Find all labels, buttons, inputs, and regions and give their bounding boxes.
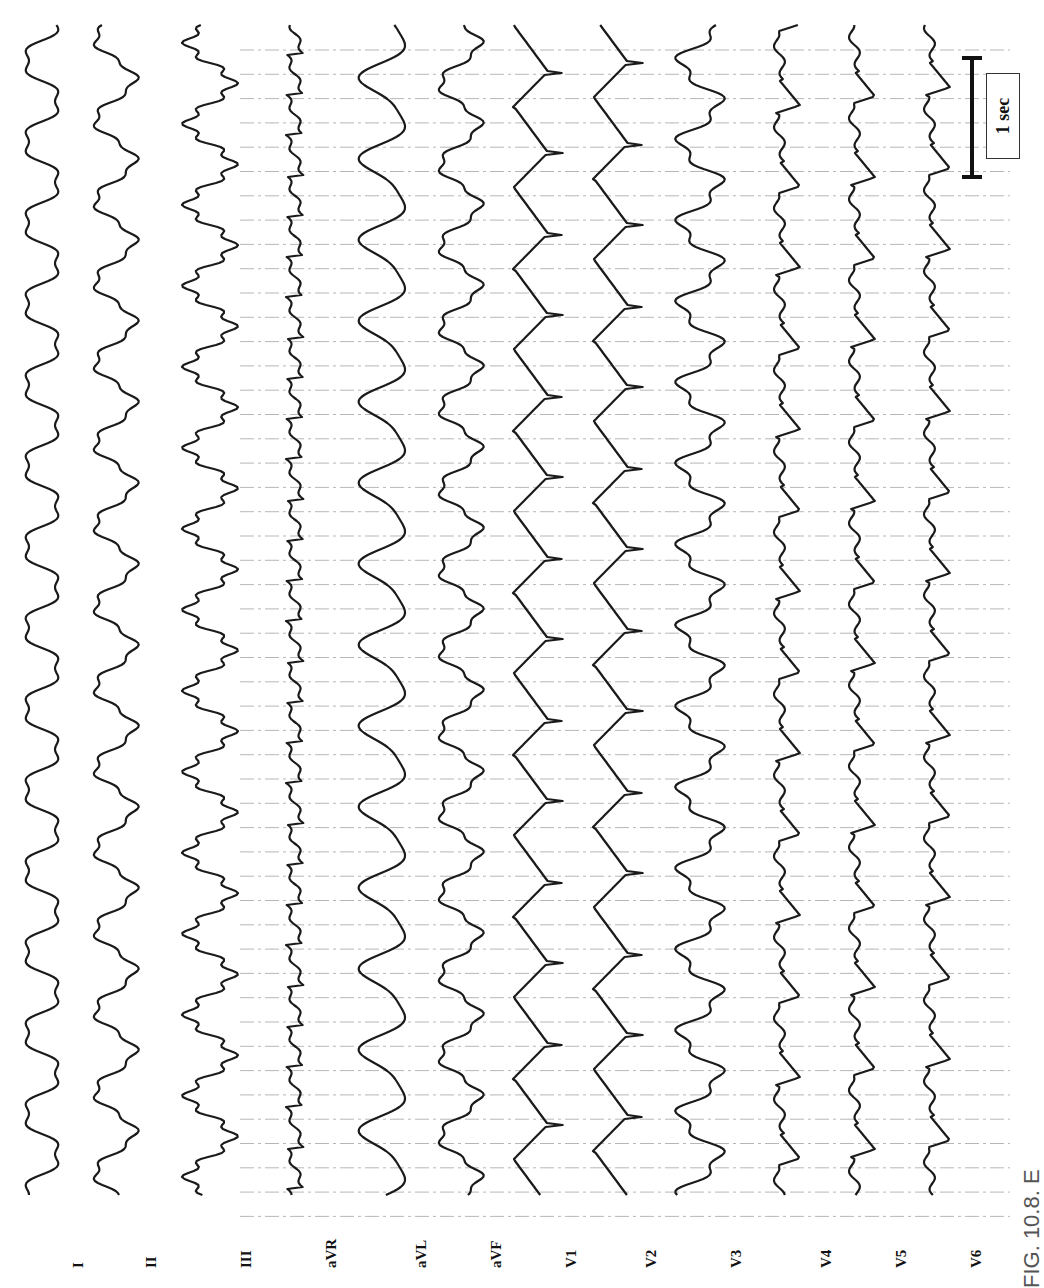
- lead-label-avr: aVR: [323, 1239, 340, 1268]
- lead-label-v6: V6: [968, 1250, 985, 1268]
- lead-label-i: I: [70, 1262, 87, 1268]
- lead-trace-avf: [439, 25, 484, 1195]
- ecg-traces: [26, 25, 950, 1195]
- lead-label-v2: V2: [643, 1250, 660, 1268]
- figure-caption: FIG. 10.8. E: [1019, 1169, 1044, 1288]
- lead-trace-v1: [513, 25, 563, 1195]
- lead-label-avl: aVL: [413, 1240, 430, 1268]
- lead-trace-v3: [675, 25, 725, 1195]
- lead-trace-v2: [593, 25, 643, 1195]
- lead-label-ii: II: [143, 1256, 160, 1268]
- lead-label-avf: aVF: [488, 1241, 505, 1269]
- lead-trace-avl: [359, 25, 405, 1195]
- scale-bar-label-box: 1 sec: [986, 73, 1020, 159]
- lead-trace-iii: [182, 25, 238, 1195]
- lead-label-v3: V3: [728, 1250, 745, 1268]
- scale-bar-label: 1 sec: [993, 98, 1014, 134]
- lead-trace-i: [26, 25, 59, 1195]
- lead-trace-ii: [94, 25, 139, 1195]
- lead-trace-v6: [924, 25, 950, 1195]
- lead-label-v4: V4: [818, 1250, 835, 1268]
- lead-label-v5: V5: [893, 1250, 910, 1268]
- scale-bar: [962, 58, 982, 177]
- lead-trace-v5: [849, 25, 875, 1195]
- lead-label-v1: V1: [563, 1250, 580, 1268]
- lead-trace-avr: [286, 25, 303, 1195]
- lead-trace-v4: [774, 25, 800, 1195]
- lead-label-iii: III: [238, 1250, 255, 1268]
